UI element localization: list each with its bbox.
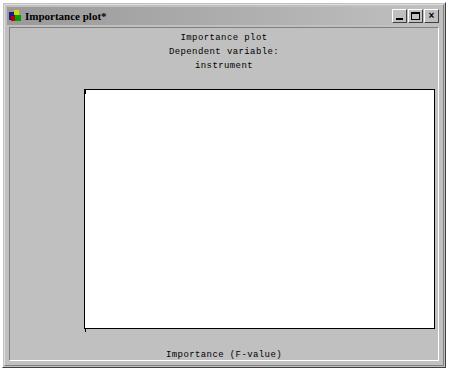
x-axis-tick [85,328,86,332]
x-axis-title: Importance (F-value) [10,350,438,360]
maximize-icon [411,12,420,20]
plot-area [84,89,435,329]
x-axis-tick-top [85,90,86,94]
close-icon: × [425,10,438,22]
window-title: Importance plot* [25,10,107,22]
window-inner-frame: Importance plot* × Importance plot Depen… [4,4,444,366]
chart-client-area: Importance plot Dependent variable: inst… [9,27,439,361]
chart-title: Importance plot [10,31,438,45]
window-controls: × [392,9,441,23]
chart-title-block: Importance plot Dependent variable: inst… [10,31,438,73]
app-icon [9,10,22,22]
close-button[interactable]: × [424,9,439,23]
maximize-button[interactable] [408,9,423,23]
x-axis-tick-labels [84,333,435,347]
title-bar[interactable]: Importance plot* × [7,7,441,25]
bar-series [85,90,434,328]
y-axis-labels [10,89,82,329]
chart-subtitle: Dependent variable: [10,45,438,59]
chart-subtitle-value: instrument [10,59,438,73]
minimize-button[interactable] [392,9,407,23]
minimize-icon [396,18,403,20]
application-window: Importance plot* × Importance plot Depen… [2,2,446,368]
